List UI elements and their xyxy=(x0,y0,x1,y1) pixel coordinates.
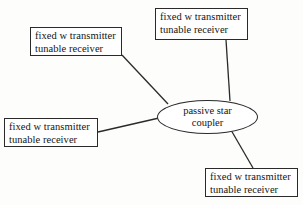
node-left-line1: fixed w transmitter xyxy=(9,121,94,134)
node-bottom-right-line1: fixed w transmitter xyxy=(210,171,294,184)
hub-label-line2: coupler xyxy=(192,117,224,130)
passive-star-coupler-node[interactable]: passive star coupler xyxy=(157,100,258,134)
node-top-left-line2: tunable receiver xyxy=(35,43,118,56)
node-left-line2: tunable receiver xyxy=(9,134,94,147)
node-bottom-right-line2: tunable receiver xyxy=(210,184,294,197)
connector-line-left xyxy=(98,118,159,132)
node-left[interactable]: fixed w transmitter tunable receiver xyxy=(4,118,98,147)
connector-line-top-left xyxy=(122,55,168,104)
connector-line-top-right xyxy=(226,40,230,101)
diagram-canvas: fixed w transmitter tunable receiver fix… xyxy=(0,0,303,205)
node-top-left-line1: fixed w transmitter xyxy=(35,30,118,43)
hub-label-line1: passive star xyxy=(183,105,232,118)
node-bottom-right[interactable]: fixed w transmitter tunable receiver xyxy=(205,168,298,197)
node-top-right-line1: fixed w transmitter xyxy=(160,11,244,24)
node-top-right-line2: tunable receiver xyxy=(160,24,244,37)
connector-line-bottom-right xyxy=(231,130,253,168)
node-top-left[interactable]: fixed w transmitter tunable receiver xyxy=(30,27,122,56)
node-top-right[interactable]: fixed w transmitter tunable receiver xyxy=(155,8,248,40)
